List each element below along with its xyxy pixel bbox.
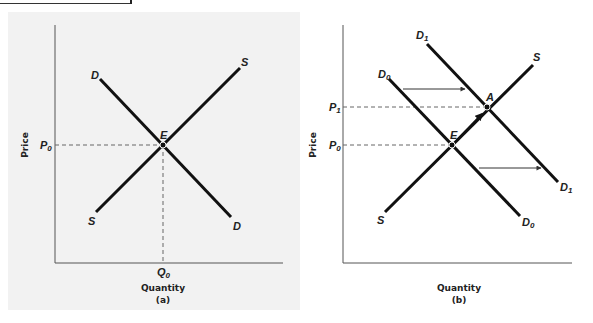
d0-label-top: D0 [378,68,391,82]
demand-curve-d1 [427,44,558,182]
d1-label-bottom: D1 [560,181,573,195]
panel-b-graph: D0 D0 D1 D1 S S E A P1 P0 Quantity (b) P… [0,0,593,323]
p0-label: P0 [329,139,341,153]
panel-caption: (b) [452,295,467,305]
s-label-top: S [533,51,541,63]
y-axis-title: Price [308,132,318,158]
e-label: E [450,129,458,141]
equilibrium-point-e [449,142,455,148]
demand-curve-d0 [389,79,520,216]
s-label-bottom: S [377,214,385,226]
x-axis-title: Quantity [437,283,481,293]
p1-label: P1 [329,101,341,115]
d0-label-bottom: D0 [522,216,535,230]
movement-arrow-e-to-a [457,114,482,140]
a-label: A [485,91,494,103]
equilibrium-point-a [484,104,490,110]
d1-label-top: D1 [416,29,429,43]
